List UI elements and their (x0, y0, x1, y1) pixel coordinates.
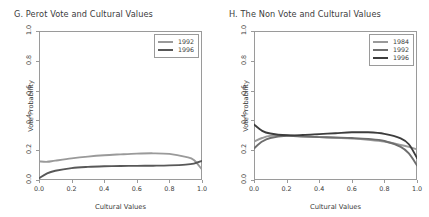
panel-h-y-tick-label: 0.0 (239, 175, 249, 183)
panel-h-legend-label: 1996 (393, 54, 409, 62)
panel-g-x-tickmark (137, 180, 138, 183)
panel-h-x-tickmark (352, 180, 353, 183)
panel-g-x-tick-label: 1.0 (197, 185, 207, 193)
series-line-1996 (254, 125, 417, 158)
panel-h-x-tickmark (287, 180, 288, 183)
panel-g-y-tickmark (36, 120, 39, 121)
panel-h-x-tick-label: 0.6 (347, 185, 357, 193)
panel-g-legend: 19921996 (154, 34, 199, 58)
panel-g-y-tickmark (36, 91, 39, 92)
panel-g-y-tick-label: 0.4 (24, 115, 34, 123)
legend-line-swatch-icon (158, 41, 173, 43)
panel-h-y-tick-label: 1.0 (239, 26, 249, 34)
panel-g-plot-area: Vote Probability Cultural Values 1992199… (39, 31, 202, 180)
panel-h-y-tickmark (251, 91, 254, 92)
panel-h-x-axis-label: Cultural Values (254, 203, 417, 211)
legend-line-swatch-icon (158, 49, 173, 51)
panel-h-y-tick-label: 0.4 (239, 115, 249, 123)
panel-g-x-tickmark (202, 180, 203, 183)
panel-g-legend-item-1992: 1992 (158, 38, 194, 46)
panel-h-legend-item-1996: 1996 (373, 54, 409, 62)
panel-h-legend-item-1984: 1984 (373, 38, 409, 46)
panel-g-y-tickmark (36, 31, 39, 32)
panel-h-y-tickmark (251, 120, 254, 121)
panel-g-legend-label: 1996 (178, 46, 194, 54)
panel-g-y-tick-label: 1.0 (24, 26, 34, 34)
panel-h-y-tickmark (251, 61, 254, 62)
legend-line-swatch-icon (373, 57, 388, 59)
panel-g-x-tick-label: 0.6 (132, 185, 142, 193)
panel-g-x-tick-label: 0.4 (99, 185, 109, 193)
panel-h-x-tick-label: 0.0 (249, 185, 259, 193)
panel-g-title: G. Perot Vote and Cultural Values (14, 9, 153, 19)
panel-h-x-tick-label: 1.0 (412, 185, 422, 193)
panel-h-x-tickmark (319, 180, 320, 183)
panel-g-x-tick-label: 0.0 (34, 185, 44, 193)
panel-g-legend-item-1996: 1996 (158, 46, 194, 54)
panel-h-x-tickmark (254, 180, 255, 183)
panel-h-y-tick-label: 0.2 (239, 145, 249, 153)
panel-h-plot-area: Vote Probability Cultural Values 1984199… (254, 31, 417, 180)
panel-h: H. The Non Vote and Cultural Values Vote… (215, 0, 429, 217)
panel-g-legend-label: 1992 (178, 38, 194, 46)
panel-h-legend: 198419921996 (369, 34, 414, 66)
panel-h-legend-item-1992: 1992 (373, 46, 409, 54)
figure-two-panel-line-charts: G. Perot Vote and Cultural Values Vote P… (0, 0, 429, 217)
panel-g: G. Perot Vote and Cultural Values Vote P… (0, 0, 214, 217)
panel-h-y-tickmark (251, 150, 254, 151)
panel-h-x-tickmark (384, 180, 385, 183)
panel-g-x-tick-label: 0.8 (164, 185, 174, 193)
panel-g-y-tickmark (36, 61, 39, 62)
panel-g-x-axis-label: Cultural Values (39, 203, 202, 211)
panel-g-y-tick-label: 0.8 (24, 56, 34, 64)
panel-g-y-tick-label: 0.0 (24, 175, 34, 183)
panel-g-x-tickmark (169, 180, 170, 183)
panel-h-x-tick-label: 0.8 (379, 185, 389, 193)
panel-h-x-tickmark (417, 180, 418, 183)
panel-g-y-tick-label: 0.2 (24, 145, 34, 153)
panel-g-x-tickmark (104, 180, 105, 183)
series-line-1996 (39, 161, 202, 178)
panel-h-title: H. The Non Vote and Cultural Values (229, 9, 381, 19)
series-line-1992 (254, 136, 417, 166)
panel-h-legend-label: 1984 (393, 38, 409, 46)
panel-g-x-tickmark (39, 180, 40, 183)
panel-h-x-tick-label: 0.4 (314, 185, 324, 193)
legend-line-swatch-icon (373, 41, 388, 43)
series-line-1992 (39, 153, 202, 169)
panel-h-legend-label: 1992 (393, 46, 409, 54)
panel-h-y-tick-label: 0.8 (239, 56, 249, 64)
legend-line-swatch-icon (373, 49, 388, 51)
panel-h-x-tick-label: 0.2 (282, 185, 292, 193)
panel-g-x-tickmark (72, 180, 73, 183)
panel-h-y-tickmark (251, 31, 254, 32)
panel-h-y-tick-label: 0.6 (239, 86, 249, 94)
panel-g-y-tickmark (36, 150, 39, 151)
panel-g-y-tick-label: 0.6 (24, 86, 34, 94)
panel-g-x-tick-label: 0.2 (67, 185, 77, 193)
